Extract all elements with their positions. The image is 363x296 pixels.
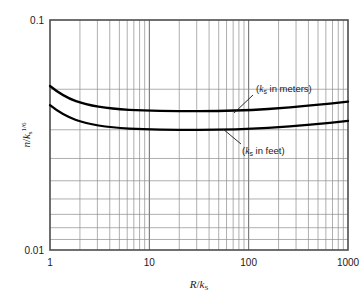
chart-figure: (ks in meters) (ks in feet) 0.1 0.01 1 1… [0,0,363,296]
x-tick-label-2: 100 [240,257,257,268]
x-tick-label-3: 1000 [337,257,360,268]
y-tick-label-1: 0.01 [25,245,45,256]
y-tick-label-0: 0.1 [30,15,44,26]
x-tick-label-0: 1 [47,257,53,268]
y-axis-title: n/ks1/6 [20,122,34,148]
x-tick-label-1: 10 [144,257,156,268]
annotation-ks-in-feet: (ks in feet) [242,145,285,157]
chart-svg: (ks in meters) (ks in feet) 0.1 0.01 1 1… [0,0,363,296]
plot-background [50,20,348,250]
x-axis-title: R/kS [189,278,209,292]
